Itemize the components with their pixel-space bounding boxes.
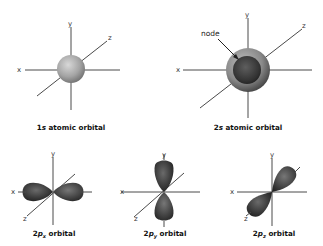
y-axis-label: y <box>245 11 249 19</box>
z-axis-label: z <box>108 34 112 42</box>
x-axis-label: x <box>230 188 234 196</box>
orbital-2pz: y x z 2pz orbital <box>230 151 307 239</box>
lobe-top <box>154 161 173 193</box>
inner-sphere <box>233 56 261 84</box>
node-pointer-line <box>218 39 237 58</box>
z-axis-label: z <box>302 22 306 30</box>
caption-2px: 2px orbital <box>33 229 76 239</box>
orbital-2s: node y x z 2s atomic orbital <box>176 11 312 132</box>
x-axis-label: x <box>176 66 180 74</box>
y-axis-label: y <box>51 150 55 158</box>
lobe-right <box>53 183 84 201</box>
caption-2pz: 2pz orbital <box>253 229 295 239</box>
x-axis-label: x <box>120 188 124 196</box>
x-axis-label: x <box>11 188 15 196</box>
orbital-1s: y x z 1s atomic orbital <box>17 20 120 132</box>
lobe-left <box>23 183 54 201</box>
z-axis-top <box>295 167 300 172</box>
lobe-back <box>272 166 296 192</box>
y-axis-label: y <box>68 20 72 28</box>
caption-2s: 2s atomic orbital <box>214 123 283 132</box>
orbital-2px: y x z 2px orbital <box>11 150 92 239</box>
caption-2py: 2py orbital <box>144 229 187 240</box>
caption-1s: 1s atomic orbital <box>37 123 106 132</box>
y-axis-label: y <box>162 151 166 159</box>
orbital-diagram: y x z 1s atomic orbital node y x z 2s at… <box>0 0 323 246</box>
z-axis-label: z <box>134 215 138 223</box>
z-axis-label: z <box>244 215 248 223</box>
z-axis-label: z <box>23 215 27 223</box>
lobe-front <box>247 192 272 217</box>
x-axis-label: x <box>17 66 21 74</box>
orbital-2py: y x z 2py orbital <box>120 151 200 240</box>
y-axis-label: y <box>270 151 274 159</box>
node-label: node <box>201 29 220 38</box>
s-orbital-sphere <box>57 55 85 83</box>
